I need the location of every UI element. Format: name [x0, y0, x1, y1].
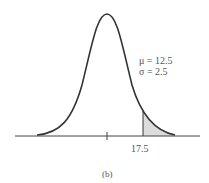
shaded-tail-region [143, 111, 175, 136]
caption: (b) [102, 169, 113, 180]
mu-label: μ = 12.5 [139, 55, 173, 66]
normal-curve-chart [0, 0, 209, 183]
sigma-label: σ = 2.5 [139, 66, 168, 77]
tick-label-17-5: 17.5 [131, 143, 149, 154]
